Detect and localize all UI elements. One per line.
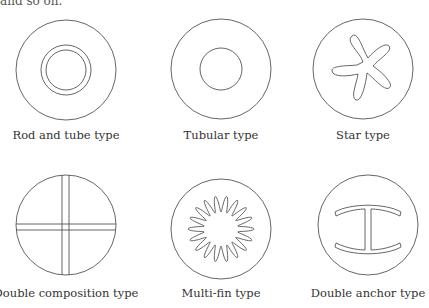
rod-and-tube-figure	[16, 20, 116, 120]
double-composition-figure	[16, 175, 116, 275]
star-figure	[313, 19, 413, 119]
double-anchor-figure	[318, 175, 418, 275]
label-tubular: Tubular type	[146, 128, 296, 142]
diagram-canvas	[0, 0, 429, 308]
label-rod-and-tube: Rod and tube type	[0, 128, 141, 142]
label-double-composition: Double composition type	[0, 286, 141, 300]
label-double-anchor: Double anchor type	[293, 286, 429, 300]
label-multi-fin: Multi-fin type	[146, 286, 296, 300]
label-star: Star type	[288, 128, 429, 142]
multi-fin-figure	[171, 179, 271, 279]
tubular-figure	[171, 19, 271, 119]
